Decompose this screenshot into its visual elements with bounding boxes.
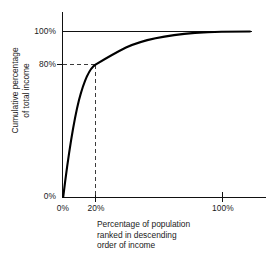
x-axis-title: Percentage of population ranked in desce… [97, 219, 247, 251]
lorenz-curve-path [63, 32, 250, 198]
x-tick-label-0: 0% [49, 204, 77, 212]
x-tick-label-100: 100% [205, 204, 241, 212]
y-axis-title: Cumulative percentage of total income [10, 26, 31, 156]
x-axis-title-line-2: ranked in descending [97, 230, 247, 241]
x-tick-label-20: 20% [81, 204, 111, 212]
lorenz-curve-figure: 100% 80% 0% 0% 20% 100% Percentage of po… [0, 0, 272, 261]
x-axis-title-line-1: Percentage of population [97, 219, 247, 230]
x-axis-title-line-3: order of income [97, 240, 247, 251]
y-axis-title-line-1: Cumulative percentage [10, 26, 21, 156]
y-tick-label-0: 0% [20, 192, 56, 200]
y-axis-title-line-2: of total income [20, 26, 31, 156]
